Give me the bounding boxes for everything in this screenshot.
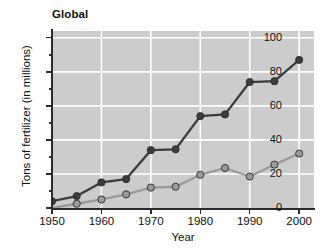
- data-point: [296, 56, 303, 63]
- chart-title: Global: [52, 8, 88, 20]
- data-point: [98, 196, 105, 203]
- plot-svg: [52, 31, 314, 208]
- gridlines: [52, 31, 314, 208]
- data-point: [246, 78, 253, 85]
- y-axis-ticks: [40, 0, 52, 250]
- y-axis-title: Tons of fertilizer (in millions): [20, 26, 32, 206]
- x-tick: [51, 209, 52, 214]
- y-tick-minor: [49, 122, 53, 123]
- y-tick-minor: [49, 190, 53, 191]
- data-point: [197, 171, 204, 178]
- y-tick-minor: [49, 156, 53, 157]
- x-tick-label: 1970: [131, 215, 171, 227]
- x-tick: [200, 209, 201, 214]
- y-tick-major: [46, 105, 52, 106]
- data-point: [147, 147, 154, 154]
- data-point: [147, 184, 154, 191]
- data-point: [197, 113, 204, 120]
- series-line-light-series: [52, 154, 299, 208]
- x-tick-label: 1950: [32, 215, 72, 227]
- data-point: [123, 175, 130, 182]
- series-markers: [52, 56, 303, 207]
- y-tick-label: 20: [270, 167, 282, 179]
- fertilizer-line-chart: Global 020406080100 19501960197019801990…: [0, 0, 328, 250]
- y-tick-label: 100: [264, 31, 282, 43]
- x-tick: [249, 209, 250, 214]
- x-tick-label: 2000: [279, 215, 319, 227]
- y-tick-major: [46, 71, 52, 72]
- y-tick-label: 0: [276, 201, 282, 213]
- data-point: [271, 78, 278, 85]
- data-point: [73, 200, 80, 207]
- data-point: [98, 179, 105, 186]
- series-line-dark-series: [52, 60, 299, 201]
- plot-area: [52, 31, 314, 208]
- y-tick-label: 60: [270, 99, 282, 111]
- y-tick-label: 80: [270, 65, 282, 77]
- data-point: [172, 146, 179, 153]
- data-point: [296, 150, 303, 157]
- data-point: [221, 164, 228, 171]
- data-point: [172, 183, 179, 190]
- x-tick: [150, 209, 151, 214]
- y-tick-major: [46, 173, 52, 174]
- data-point: [123, 191, 130, 198]
- data-point: [73, 192, 80, 199]
- y-tick-label: 40: [270, 133, 282, 145]
- y-tick-minor: [49, 54, 53, 55]
- data-point: [246, 173, 253, 180]
- data-point: [221, 111, 228, 118]
- x-tick: [298, 209, 299, 214]
- y-tick-major: [46, 139, 52, 140]
- x-tick: [101, 209, 102, 214]
- y-tick-major: [46, 37, 52, 38]
- x-tick-label: 1960: [81, 215, 121, 227]
- x-tick-label: 1990: [230, 215, 270, 227]
- x-tick-label: 1980: [180, 215, 220, 227]
- y-tick-minor: [49, 88, 53, 89]
- x-axis-title: Year: [52, 231, 314, 243]
